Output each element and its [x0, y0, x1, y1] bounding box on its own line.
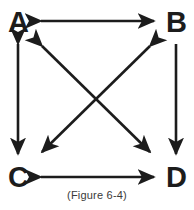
figure-diagram: A B C D (Figure 6-4) — [0, 0, 194, 210]
node-label-a: A — [8, 8, 29, 37]
figure-caption: (Figure 6-4) — [0, 189, 194, 201]
node-label-d: D — [166, 163, 187, 192]
node-label-c: C — [8, 163, 29, 192]
node-label-b: B — [166, 8, 187, 37]
arrow-network-svg — [0, 0, 194, 210]
